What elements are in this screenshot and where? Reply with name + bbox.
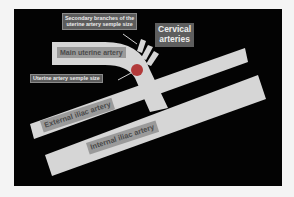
pointer-line-secondary xyxy=(123,34,137,44)
cervical-arteries-label-line2: arteries xyxy=(158,35,191,45)
cervical-arteries-label: Cervical arteries xyxy=(155,23,194,47)
sample-point-icon xyxy=(131,64,143,76)
main-uterine-artery-label: Main uterine artery xyxy=(57,47,126,58)
vessel-drawing xyxy=(0,0,294,197)
secondary-branches-label-line2: uterine artery semple size xyxy=(65,21,134,27)
pointer-line-sample xyxy=(118,73,131,80)
uterine-sample-size-label: Uterine artery semple size xyxy=(30,74,103,83)
branch-stub-1 xyxy=(137,39,146,53)
secondary-branches-label: Secondary branches of the uterine artery… xyxy=(62,13,137,30)
